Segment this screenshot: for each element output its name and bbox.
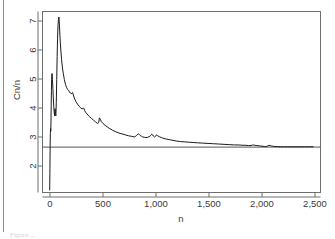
- x-tick-label: 2,500: [303, 198, 327, 209]
- x-tick-label: 0: [47, 198, 52, 209]
- plot-panel-border: [43, 12, 321, 193]
- y-tick-label: 6: [27, 47, 38, 52]
- x-tick-label: 1,000: [144, 198, 168, 209]
- y-axis-title: Cn/n: [11, 80, 22, 100]
- x-tick-label: 2,000: [250, 198, 274, 209]
- x-axis-ticks: [43, 193, 321, 198]
- x-axis-title: n: [178, 213, 183, 224]
- y-tick-label: 7: [27, 18, 38, 23]
- y-tick-label: 5: [27, 76, 38, 81]
- data-series-line: [50, 17, 313, 190]
- y-tick-label: 2: [27, 163, 38, 168]
- line-chart: 7 6 5 4 3 2 Cn/n 0 500 1,000 1,500 2,000…: [0, 0, 335, 239]
- x-tick-label: 500: [95, 198, 111, 209]
- y-axis-ticks: [38, 12, 43, 193]
- y-tick-label: 4: [27, 105, 38, 110]
- y-tick-label: 3: [27, 134, 38, 139]
- figure-container: 7 6 5 4 3 2 Cn/n 0 500 1,000 1,500 2,000…: [0, 0, 335, 239]
- x-tick-label: 1,500: [197, 198, 221, 209]
- figure-caption: Figure ...: [10, 231, 330, 239]
